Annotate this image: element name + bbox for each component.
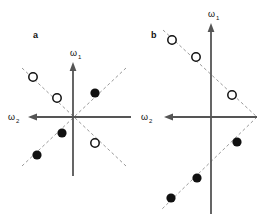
panel-b-open-marker bbox=[192, 53, 200, 61]
panel-a-filled-marker bbox=[32, 150, 41, 159]
panel-b-filled-marker bbox=[166, 193, 175, 202]
panel-a-omega1-symbol: ω bbox=[70, 48, 77, 58]
panel-a-filled-marker bbox=[90, 88, 99, 97]
two-panel-frequency-diagram: a ω 1 ω 2 bbox=[0, 0, 268, 223]
panel-a-open-marker bbox=[53, 94, 61, 102]
panel-b-open-marker bbox=[168, 36, 176, 44]
panel-b-open-marker bbox=[228, 91, 236, 99]
figure-background bbox=[0, 0, 268, 223]
figure-container: a ω 1 ω 2 bbox=[0, 0, 268, 223]
panel-a-open-marker bbox=[29, 73, 37, 81]
panel-b-label: b bbox=[151, 30, 157, 40]
panel-a-filled-marker bbox=[57, 128, 66, 137]
panel-a-omega2-symbol: ω bbox=[8, 112, 15, 122]
panel-b-filled-marker bbox=[232, 137, 241, 146]
panel-a-open-marker bbox=[91, 139, 99, 147]
panel-b-omega1-symbol: ω bbox=[208, 9, 215, 19]
panel-b-filled-marker bbox=[192, 173, 201, 182]
panel-b-omega2-symbol: ω bbox=[141, 112, 148, 122]
